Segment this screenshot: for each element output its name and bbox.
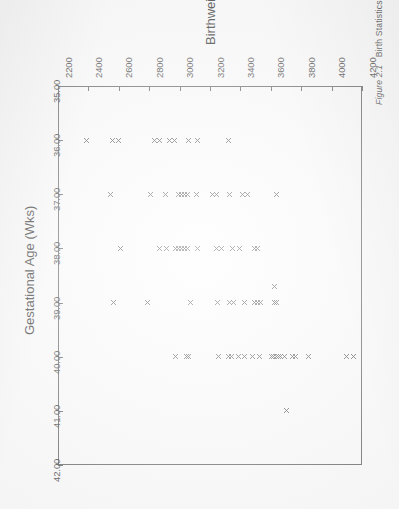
birthweight-tick — [210, 86, 211, 91]
birthweight-tick — [271, 86, 272, 91]
birthweight-tick — [301, 86, 302, 91]
birthweight-ticklabel: 3800 — [306, 57, 317, 78]
birthweight-ticklabel: 2200 — [63, 57, 74, 78]
birthweight-ticklabel: 2800 — [154, 57, 165, 78]
y-axis-title-birthweight: Birthweight (g) — [203, 0, 218, 45]
birthweight-ticklabel: 3400 — [245, 57, 256, 78]
figure-caption-number: Figure 2.1 — [374, 65, 384, 105]
birthweight-ticklabel: 2400 — [93, 57, 104, 78]
plot-frame — [58, 86, 362, 465]
birthweight-tick — [149, 86, 150, 91]
gestational-age-ticklabel: 36.00 — [51, 134, 62, 157]
birthweight-tick — [180, 86, 181, 91]
birthweight-tick — [88, 86, 89, 91]
gestational-age-ticklabel: 39.00 — [51, 296, 62, 319]
birthweight-tick — [362, 86, 363, 91]
gestational-age-ticklabel: 41.00 — [51, 405, 62, 428]
gestational-age-ticklabel: 35.00 — [51, 80, 62, 103]
birthweight-ticklabel: 4000 — [336, 57, 347, 78]
figure-caption: Figure 2.1 Birth Statistics for all Fore… — [374, 0, 384, 105]
birthweight-ticklabel: 2600 — [123, 57, 134, 78]
figure-caption-gap — [374, 57, 384, 65]
birthweight-ticklabel: 3000 — [184, 57, 195, 78]
gestational-age-ticklabel: 37.00 — [51, 188, 62, 211]
birthweight-tick — [332, 86, 333, 91]
gestational-age-ticklabel: 40.00 — [51, 350, 62, 373]
scanned-page: 2200240026002800300032003400360038004000… — [0, 0, 399, 509]
birthweight-ticklabel: 3600 — [275, 57, 286, 78]
birthweight-tick — [119, 86, 120, 91]
x-axis-title-gestational-age: Gestational Age (Wks) — [22, 206, 37, 335]
birthweight-tick — [240, 86, 241, 91]
figure-birthweight-scatter: 2200240026002800300032003400360038004000… — [0, 0, 399, 509]
gestational-age-ticklabel: 38.00 — [51, 242, 62, 265]
gestational-age-ticklabel: 42.00 — [51, 459, 62, 482]
birthweight-ticklabel: 3200 — [215, 57, 226, 78]
figure-caption-text: Birth Statistics for all Foresight pregn… — [374, 0, 384, 57]
